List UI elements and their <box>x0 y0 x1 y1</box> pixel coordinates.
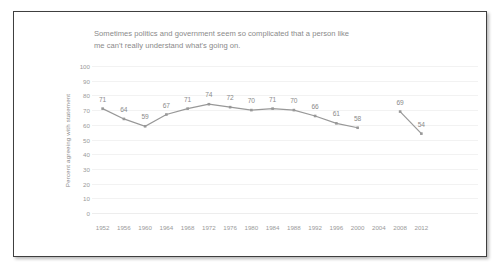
y-axis-tick-labels: 0102030405060708090100 <box>66 12 90 258</box>
y-axis-tick-label: 90 <box>66 77 90 84</box>
y-axis-tick-label: 20 <box>66 180 90 187</box>
data-point-label: 69 <box>387 99 413 106</box>
y-axis-tick-label: 100 <box>66 63 90 70</box>
data-point-label: 71 <box>90 96 116 103</box>
chart-figure-frame: Sometimes politics and government seem s… <box>13 11 487 257</box>
data-point-label: 54 <box>408 121 434 128</box>
y-axis-tick-label: 0 <box>66 210 90 217</box>
y-axis-tick-label: 70 <box>66 107 90 114</box>
data-point-labels: 716459677174727071706661586954 <box>92 12 478 258</box>
y-axis-tick-label: 30 <box>66 165 90 172</box>
y-axis-tick-label: 50 <box>66 136 90 143</box>
y-axis-tick-label: 40 <box>66 151 90 158</box>
data-point-label: 64 <box>111 106 137 113</box>
plot-area: Percent agreeing with statement 01020304… <box>14 12 488 258</box>
data-point-label: 58 <box>345 115 371 122</box>
y-axis-tick-label: 10 <box>66 195 90 202</box>
y-axis-tick-label: 60 <box>66 121 90 128</box>
data-point-label: 66 <box>302 103 328 110</box>
y-axis-tick-label: 80 <box>66 92 90 99</box>
data-point-label: 59 <box>132 113 158 120</box>
